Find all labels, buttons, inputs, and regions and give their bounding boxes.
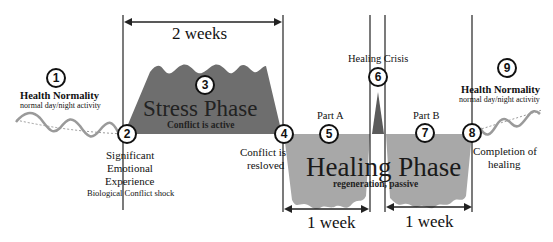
stress-phase-subtitle: Conflict is active [167,121,235,131]
part-b-label: Part B [413,110,440,121]
stage-badge-9: 9 [497,58,517,78]
stage-8-line-2: healing [488,159,520,171]
stage-badge-3: 3 [195,75,215,95]
stage-badge-8: 8 [462,123,482,143]
stage-badge-2: 2 [117,124,137,144]
stage-1-title: Health Normality [20,90,99,101]
healing-phase-subtitle: regeneration, passive [333,180,418,190]
stress-phase-title: Stress Phase [143,97,257,121]
healing-crisis-label: Healing Crisis [348,53,408,64]
stage-2-subtitle: Biological Conflict shock [87,189,174,198]
stage-2-line-1: Significant [106,150,154,162]
stage-badge-4: 4 [274,124,294,144]
duration-label-part-a: 1 week [307,214,356,232]
normality-wave-left [16,113,126,137]
normality-trend-right [478,110,542,130]
stage-badge-6: 6 [368,67,388,87]
stage-badge-5: 5 [319,124,339,144]
stage-badge-1: 1 [46,68,66,88]
normality-wave-right [480,111,540,134]
stage-badge-7: 7 [415,123,435,143]
stage-4-line-1: Conflict is [240,147,286,159]
stage-2-line-3: Experience [105,176,154,188]
stage-4-line-2: resloved [247,160,284,172]
stage-1-subtitle: normal day/night activity [20,102,101,110]
part-a-label: Part A [317,110,344,121]
healing-phase-title: Healing Phase [306,153,461,181]
biphasic-diagram-graphic [0,0,553,242]
stage-9-title: Health Normality [461,84,540,95]
duration-label-stress: 2 weeks [172,25,227,43]
stage-2-line-2: Emotional [107,163,153,175]
stage-8-line-1: Completion of [473,146,537,158]
stage-9-subtitle: normal day/night activity [459,96,540,104]
duration-label-part-b: 1 week [405,213,454,231]
healing-crisis-spike [372,92,384,134]
